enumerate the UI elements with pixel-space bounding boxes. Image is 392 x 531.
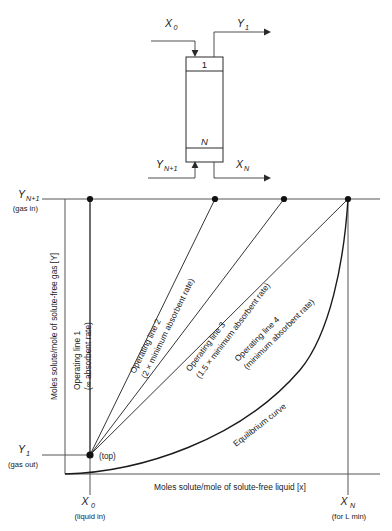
y-top-tick-sub: N+1 [26, 194, 39, 203]
gas-outlet-arrow-icon [264, 29, 271, 36]
gas-outlet-label-sub: 1 [245, 23, 249, 32]
y-top-tick-label: Y [18, 188, 26, 200]
column-schematic: 1 N X 0 Y 1 Y N+1 X N [148, 17, 271, 181]
figure-svg: 1 N X 0 Y 1 Y N+1 X N [0, 0, 392, 531]
liquid-inlet-label-sub: 0 [174, 23, 178, 32]
y-bottom-tick-note: (gas out) [8, 460, 38, 469]
x-right-tick-note: (for L min) [332, 512, 367, 521]
y-bottom-tick-sub: 1 [26, 449, 30, 458]
x-left-tick-note: (liquid in) [75, 512, 106, 521]
x-right-tick-label: X [339, 495, 348, 507]
gas-inlet-label-sub: N+1 [164, 164, 177, 173]
liquid-outlet-arrow-icon [264, 175, 271, 182]
liquid-inlet-arrow-icon [192, 50, 199, 57]
x-left-tick-label: X [80, 495, 89, 507]
x-axis-title: Moles solute/mole of solute-free liquid … [154, 482, 306, 492]
liquid-inlet-label: X [164, 17, 173, 29]
y-top-tick-note: (gas in) [13, 204, 39, 213]
x-right-tick-sub: N [350, 501, 356, 510]
endpoint-dot-line-4 [345, 196, 351, 202]
operating-line-plot: (top) Y N+1 (gas in) Y 1 (gas out) X 0 (… [8, 188, 380, 521]
absorption-column-figure: 1 N X 0 Y 1 Y N+1 X N [0, 0, 392, 531]
liquid-outlet-label-sub: N [244, 164, 250, 173]
y-axis-title: Moles solute/mole of solute-free gas [Y] [49, 253, 59, 400]
liquid-inlet-pipe [151, 41, 195, 53]
y-bottom-tick-label: Y [18, 443, 26, 455]
endpoint-dot-line-2 [212, 196, 218, 202]
stage-label-last: N [201, 136, 208, 147]
operating-line-1-note: (∞ absorbent rate) [83, 322, 93, 390]
endpoint-dot-line-3 [281, 196, 287, 202]
gas-outlet-label: Y [237, 17, 245, 29]
pinch-point-dot [86, 451, 93, 458]
pinch-point-label: (top) [99, 452, 116, 461]
endpoint-dot-line-1 [87, 196, 93, 202]
x-left-tick-sub: 0 [91, 501, 95, 510]
operating-line-1-label: Operating line 1 [72, 331, 82, 390]
stage-label-first: 1 [202, 59, 207, 70]
gas-inlet-label: Y [156, 158, 164, 170]
liquid-outlet-label: X [235, 158, 244, 170]
gas-outlet-pipe [214, 32, 266, 57]
operating-line-3 [90, 199, 284, 455]
